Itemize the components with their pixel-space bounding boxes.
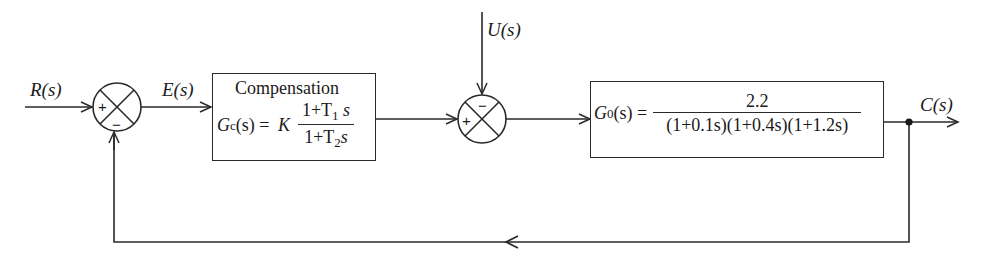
junction-1-plus: + (98, 99, 107, 114)
junction-2-minus: − (478, 98, 487, 113)
compensator-fraction: 1+T1 s 1+T2s (298, 101, 354, 149)
error-signal-label: E(s) (162, 80, 194, 99)
output-signal-label: C(s) (920, 95, 953, 114)
num-text: 1+T (302, 100, 332, 120)
takeoff-point (905, 118, 912, 125)
plant-argument: (s) = (614, 104, 648, 122)
plant-block: G0(s) = 2.2 (1+0.1s)(1+0.4s)(1+1.2s) (590, 81, 884, 158)
plant-denominator: (1+0.1s)(1+0.4s)(1+1.2s) (662, 113, 852, 134)
plant-transfer-function: G0(s) = 2.2 (1+0.1s)(1+0.4s)(1+1.2s) (594, 92, 861, 134)
disturbance-signal-label: U(s) (487, 20, 521, 39)
num-tail: s (339, 100, 351, 120)
compensator-numerator: 1+T1 s (298, 101, 354, 125)
compensator-title: Compensation (235, 79, 339, 97)
den-tail: s (341, 127, 348, 147)
plant-fraction: 2.2 (1+0.1s)(1+0.4s)(1+1.2s) (653, 92, 861, 134)
den-text: 1+T (304, 127, 334, 147)
compensator-block: Compensation Gc(s) = K 1+T1 s 1+T2s (212, 73, 376, 161)
junction-1-minus: − (112, 117, 121, 132)
junction-2-plus: + (462, 113, 471, 128)
input-signal-label: R(s) (30, 80, 62, 99)
compensator-transfer-function: Gc(s) = K 1+T1 s 1+T2s (217, 101, 354, 149)
compensator-argument: (s) = (236, 116, 274, 134)
compensator-symbol: G (217, 116, 230, 134)
compensator-denominator: 1+T2s (300, 125, 352, 149)
plant-symbol: G (594, 104, 607, 122)
compensator-gain: K (278, 116, 290, 134)
plant-numerator: 2.2 (653, 92, 861, 113)
